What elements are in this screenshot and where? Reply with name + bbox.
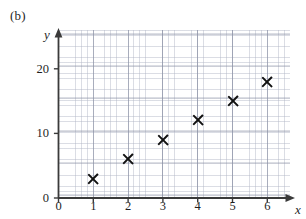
x-tick-label-2: 2	[125, 200, 131, 213]
x-axis-arrowhead	[286, 194, 296, 202]
y-tick-label-20: 20	[24, 62, 49, 75]
x-tick-label-5: 5	[229, 200, 235, 213]
y-tick-label-0: 0	[31, 192, 49, 205]
y-axis-arrowhead	[55, 28, 63, 38]
x-tick-label-6: 6	[264, 200, 270, 213]
y-tick-label-10: 10	[24, 127, 49, 140]
x-tick-label-0: 0	[55, 200, 61, 213]
x-tick-label-1: 1	[90, 200, 96, 213]
y-axis-label: y	[44, 28, 50, 41]
x-tick-label-4: 4	[195, 200, 201, 213]
x-tick-label-3: 3	[160, 200, 166, 213]
scatter-plot-figure: (b) 0 1 2 3 4	[0, 0, 306, 219]
x-axis-label: x	[295, 203, 301, 216]
